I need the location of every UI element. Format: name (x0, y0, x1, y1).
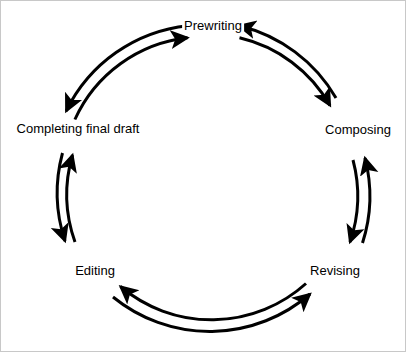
cycle-arrows-group (1, 1, 406, 352)
arrow-composing-to-prewriting (239, 26, 336, 98)
arrow-completing-final-draft-to-prewriting (75, 38, 188, 120)
arrow-editing-to-revising (113, 294, 310, 331)
arrow-composing-to-revising (350, 160, 358, 242)
arrow-revising-to-composing (363, 158, 370, 243)
node-label-composing: Composing (323, 122, 393, 137)
diagram-canvas: Prewriting Composing Revising Editing Co… (0, 0, 406, 352)
node-label-completing-final-draft: Completing final draft (15, 121, 142, 136)
node-label-prewriting: Prewriting (182, 18, 244, 33)
arrow-editing-to-completing-final-draft (67, 155, 75, 242)
node-label-revising: Revising (308, 263, 362, 278)
arrow-completing-final-draft-to-editing (57, 153, 65, 241)
arrow-prewriting-to-completing-final-draft (66, 26, 188, 111)
node-label-editing: Editing (73, 263, 117, 278)
